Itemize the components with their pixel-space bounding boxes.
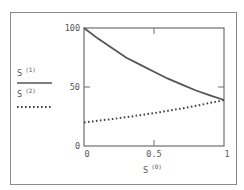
x-tick-label: 0	[84, 149, 89, 159]
legend-label-s1: S(1)	[17, 66, 36, 78]
series-line-s2	[84, 100, 224, 122]
x-tick-label: 1	[224, 149, 229, 159]
tick-marks	[84, 28, 224, 146]
x-tick-label: 0.5	[146, 149, 161, 159]
plot-area	[84, 28, 224, 146]
legend-label-s2: S(2)	[17, 87, 36, 99]
series-line-s1	[84, 28, 224, 100]
legend: S(1) S(2)	[17, 66, 52, 107]
y-tick-label: 100	[65, 23, 80, 33]
y-tick-label: 0	[75, 141, 80, 151]
x-axis-label: S(0)	[143, 163, 162, 175]
y-tick-label: 50	[70, 82, 80, 92]
chart-canvas: 100 50 0 0 0.5 1 S(0) S(1) S(2)	[0, 0, 244, 190]
